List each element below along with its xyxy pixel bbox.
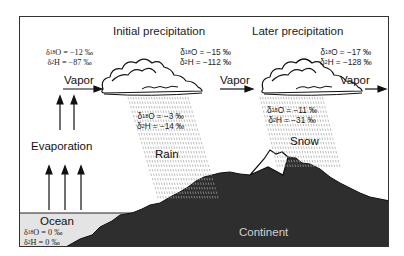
isotope-diagram-frame: Initial precipitation Later precipitatio… — [19, 16, 389, 247]
rain-o18: δ18O = −3 ‰ — [137, 112, 184, 122]
vapor-label-start: Vapor — [64, 75, 94, 87]
vapor-label-mid: Vapor — [220, 75, 250, 87]
initial-precipitation-title: Initial precipitation — [113, 26, 205, 38]
vapor-mid-o18: δ18O = −15 ‰ — [180, 48, 231, 58]
snow-h2: δ2H = −31 ‰ — [267, 116, 317, 126]
snow-label: Snow — [290, 136, 319, 148]
vapor-start-values: δ18O = −12 ‰ δ2H = −87 ‰ — [46, 48, 93, 68]
vapor-end-values: δ18O = −17 ‰ δ2H = −128 ‰ — [320, 48, 372, 68]
ocean-label: Ocean — [40, 216, 74, 228]
rain-label: Rain — [155, 149, 179, 161]
vapor-end-h2: δ2H = −128 ‰ — [320, 58, 372, 68]
vapor-end-o18: δ18O = −17 ‰ — [320, 48, 372, 58]
continent-landmass — [64, 152, 389, 247]
later-precipitation-title: Later precipitation — [252, 26, 343, 38]
vapor-mid-h2: δ2H = −112 ‰ — [180, 58, 231, 68]
rain-values: δ18O = −3 ‰ δ2H = −14 ‰ — [137, 112, 184, 132]
vapor-start-o18: δ18O = −12 ‰ — [46, 48, 93, 58]
ocean-h2: δ2H = 0 ‰ — [24, 238, 62, 247]
vapor-label-end: Vapor — [340, 75, 370, 87]
rain-h2: δ2H = −14 ‰ — [137, 122, 184, 132]
evaporation-arrows — [46, 96, 84, 210]
snow-values: δ18O = −11 ‰ δ2H = −31 ‰ — [267, 106, 317, 126]
vapor-start-h2: δ2H = −87 ‰ — [46, 58, 93, 68]
snow-o18: δ18O = −11 ‰ — [267, 106, 317, 116]
ocean-values: δ18O = 0 ‰ δ2H = 0 ‰ — [24, 228, 62, 247]
evaporation-label: Evaporation — [31, 141, 92, 153]
vapor-mid-values: δ18O = −15 ‰ δ2H = −112 ‰ — [180, 48, 231, 68]
continent-label: Continent — [239, 227, 288, 239]
ocean-o18: δ18O = 0 ‰ — [24, 228, 62, 238]
